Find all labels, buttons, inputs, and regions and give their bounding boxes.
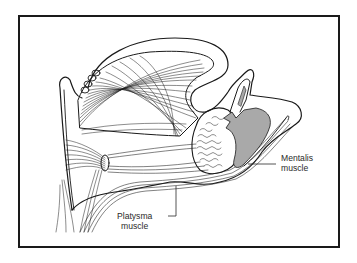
cancellous-bone-pattern [197, 117, 224, 168]
anatomy-illustration [0, 0, 357, 263]
anatomy-figure: Mentalis muscle Platysma muscle [0, 0, 357, 263]
hyoid-bone [101, 155, 109, 171]
mentalis-muscle [224, 108, 270, 167]
mentalis-label: Mentalis muscle [281, 153, 313, 173]
platysma-leader [168, 186, 176, 216]
platysma-label-line2: muscle [117, 221, 152, 231]
mentalis-label-line2: muscle [281, 163, 313, 173]
mentalis-label-line1: Mentalis [281, 153, 313, 163]
infrahyoid-fibres [56, 140, 105, 232]
hyoid-nodules [81, 70, 100, 93]
platysma-label-line1: Platysma [117, 211, 152, 221]
platysma-label: Platysma muscle [117, 211, 152, 231]
